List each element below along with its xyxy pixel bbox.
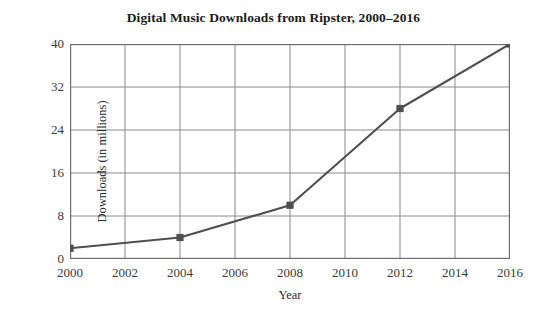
- plot-area: Downloads (in millions): [70, 44, 510, 259]
- line-chart-plot: [70, 44, 510, 259]
- vertical-gridlines: [125, 44, 455, 259]
- x-axis-tick-label: 2008: [260, 266, 320, 279]
- chart-figure: Digital Music Downloads from Ripster, 20…: [0, 0, 547, 322]
- data-point-marker: [506, 44, 510, 48]
- chart-title: Digital Music Downloads from Ripster, 20…: [0, 10, 547, 26]
- y-axis-tick-label: 16: [20, 166, 64, 179]
- data-point-marker: [70, 245, 74, 252]
- x-axis-title: Year: [70, 288, 510, 303]
- x-axis-tick-label: 2004: [150, 266, 210, 279]
- data-point-marker: [176, 234, 183, 241]
- x-axis-tick-label: 2006: [205, 266, 265, 279]
- x-axis-tick-label: 2014: [425, 266, 485, 279]
- y-axis-tick-label: 8: [20, 209, 64, 222]
- x-axis-tick-label: 2012: [370, 266, 430, 279]
- y-axis-title: Downloads (in millions): [95, 67, 110, 257]
- y-axis-tick-label: 24: [20, 123, 64, 136]
- x-axis-tick-label: 2002: [95, 266, 155, 279]
- y-axis-tick-label: 40: [20, 37, 64, 50]
- y-axis-tick-label: 0: [20, 252, 64, 265]
- data-point-marker: [286, 202, 293, 209]
- x-axis-tick-label: 2010: [315, 266, 375, 279]
- y-axis-tick-label: 32: [20, 80, 64, 93]
- x-axis-tick-label: 2016: [480, 266, 540, 279]
- y-axis-tick-labels: 0816243240: [18, 44, 64, 259]
- data-point-marker: [396, 105, 403, 112]
- x-axis-tick-labels: 200020022004200620082010201220142016: [70, 266, 510, 286]
- x-axis-tick-label: 2000: [40, 266, 100, 279]
